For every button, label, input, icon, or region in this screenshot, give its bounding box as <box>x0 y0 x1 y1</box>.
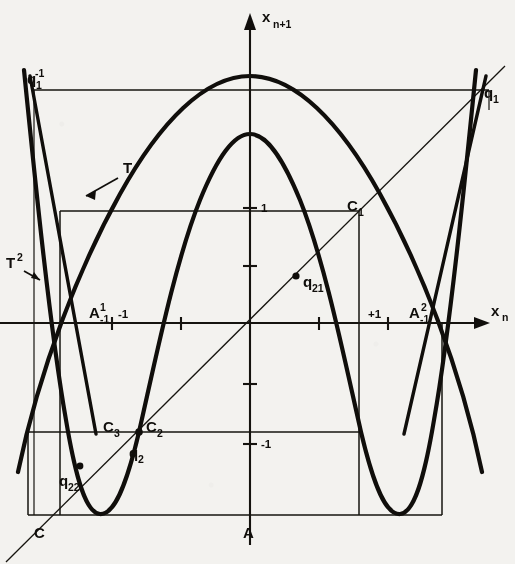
point-q1-inverse-sup: -1 <box>35 67 44 79</box>
point-label-C3: C 3 <box>103 418 120 439</box>
point-C2-base: C <box>146 418 157 435</box>
x-tick-label-plus1: +1 <box>368 308 382 320</box>
y-axis-label-sub: n+1 <box>273 18 292 30</box>
point-q1-inverse-sub: 1 <box>36 79 42 91</box>
axis-label-y: x n+1 <box>262 8 292 30</box>
curve-label-T2-sup: 2 <box>17 251 23 263</box>
x-tick-label-minus1: -1 <box>118 308 129 320</box>
y-tick-label-plus1: 1 <box>261 202 268 214</box>
point-A2-sup: 2 <box>421 301 427 313</box>
x-axis-label-base: x <box>491 302 500 319</box>
point-q22-base: q <box>59 472 68 489</box>
point-q2-base: q <box>129 444 138 461</box>
point-label-C: C <box>34 524 45 541</box>
marker-q22 <box>77 463 84 470</box>
point-A1-sub: -1 <box>100 313 109 325</box>
point-A-base: A <box>243 524 254 541</box>
curve-label-T: T <box>123 159 132 176</box>
point-label-q21: q 21 <box>303 273 324 294</box>
point-C3-base: C <box>103 418 114 435</box>
axis-label-x: x n <box>491 302 508 323</box>
diagram-canvas: -1 +1 1 -1 x n x n+1 T T 2 q 1 -1 q 1 C <box>0 0 515 564</box>
point-A2-sub: -1 <box>420 313 429 325</box>
point-A1-sup: 1 <box>100 301 106 313</box>
point-q21-sub: 21 <box>312 282 324 294</box>
point-q2-sub: 2 <box>138 453 144 465</box>
y-axis-arrowhead <box>244 13 256 30</box>
point-label-q1-inverse: q 1 -1 <box>27 67 44 91</box>
curve-label-T2-arrowhead <box>31 272 40 280</box>
tangent-right-stroke <box>404 76 486 434</box>
point-C1-sub: 1 <box>358 206 364 218</box>
point-label-A: A <box>243 524 254 541</box>
point-C-base: C <box>34 524 45 541</box>
point-label-C2: C 2 <box>146 418 163 439</box>
point-C2-sub: 2 <box>157 427 163 439</box>
curve-label-T2: T <box>6 254 15 271</box>
label-T2: T 2 <box>6 251 40 280</box>
tangent-strokes <box>30 76 486 434</box>
point-A2-base: A <box>409 304 420 321</box>
point-C1-base: C <box>347 197 358 214</box>
point-q21-base: q <box>303 273 312 290</box>
x-axis-label-sub: n <box>502 311 508 323</box>
point-q1-sub: 1 <box>493 93 499 105</box>
x-axis-arrowhead <box>474 317 490 329</box>
y-axis-label-base: x <box>262 8 271 25</box>
figure-root: -1 +1 1 -1 x n x n+1 T T 2 q 1 -1 q 1 C <box>0 0 515 564</box>
marker-q21 <box>292 272 299 279</box>
point-label-A-1-1: A -1 1 <box>89 301 109 325</box>
point-label-q1: q 1 <box>484 84 499 105</box>
point-q1-base: q <box>484 84 493 101</box>
marker-q2 <box>135 428 143 436</box>
y-tick-label-minus1: -1 <box>261 438 272 450</box>
point-C3-sub: 3 <box>114 427 120 439</box>
point-label-A-1-2: A -1 2 <box>409 301 429 325</box>
label-T: T <box>86 159 132 200</box>
point-A1-base: A <box>89 304 100 321</box>
point-q22-sub: 22 <box>68 481 80 493</box>
